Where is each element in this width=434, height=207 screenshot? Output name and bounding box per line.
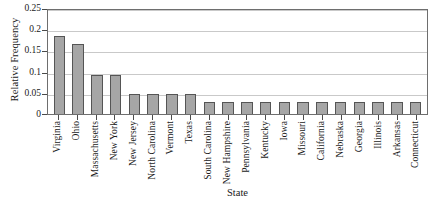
x-label-slot: Texas xyxy=(181,121,200,185)
x-tick-label: Massachusetts xyxy=(91,121,101,177)
y-tick-label: 0.05 xyxy=(24,89,41,99)
bar-slot xyxy=(294,10,313,114)
x-label-slot: Virginia xyxy=(49,121,68,185)
x-axis-tick-labels: VirginiaOhioMassachusettsNew YorkNew Jer… xyxy=(47,121,428,185)
bar-slot xyxy=(406,10,425,114)
plot-area xyxy=(47,9,428,115)
bar-slot xyxy=(88,10,107,114)
x-label-slot: Vermont xyxy=(162,121,181,185)
y-axis-tick-labels: 00.050.10.150.20.25 xyxy=(17,9,41,115)
x-axis-title: State xyxy=(47,187,428,198)
x-tick-mark xyxy=(133,115,134,120)
x-label-slot: North Carolina xyxy=(143,121,162,185)
bar-slot xyxy=(144,10,163,114)
x-tick-mark xyxy=(416,115,417,120)
x-tick-label: Iowa xyxy=(280,121,290,140)
bar xyxy=(72,44,84,114)
x-label-slot: New York xyxy=(106,121,125,185)
x-tick-slot xyxy=(68,115,87,120)
bar xyxy=(260,102,272,114)
bar-slot xyxy=(50,10,69,114)
x-tick-mark xyxy=(246,115,247,120)
bar xyxy=(129,94,141,114)
x-tick-mark xyxy=(284,115,285,120)
bar xyxy=(110,75,122,114)
x-tick-slot xyxy=(313,115,332,120)
x-tick-slot xyxy=(181,115,200,120)
bar xyxy=(316,102,328,114)
bar-slot xyxy=(369,10,388,114)
x-tick-mark xyxy=(58,115,59,120)
x-tick-slot xyxy=(143,115,162,120)
x-tick-label: Connecticut xyxy=(412,121,422,168)
bar xyxy=(297,102,309,114)
x-tick-label: New York xyxy=(110,121,120,160)
y-tick-label: 0.1 xyxy=(29,68,41,78)
x-tick-mark xyxy=(77,115,78,120)
x-tick-mark xyxy=(341,115,342,120)
x-tick-mark xyxy=(322,115,323,120)
bar-slot xyxy=(181,10,200,114)
x-tick-slot xyxy=(200,115,219,120)
x-tick-mark xyxy=(171,115,172,120)
bar-slot xyxy=(275,10,294,114)
bar-slot xyxy=(313,10,332,114)
x-tick-slot xyxy=(49,115,68,120)
x-tick-label: Arkansas xyxy=(393,121,403,157)
x-tick-slot xyxy=(106,115,125,120)
x-tick-slot xyxy=(162,115,181,120)
x-tick-slot xyxy=(219,115,238,120)
x-tick-slot xyxy=(332,115,351,120)
x-tick-mark xyxy=(359,115,360,120)
bar-slot xyxy=(69,10,88,114)
bar xyxy=(91,75,103,114)
x-tick-mark xyxy=(228,115,229,120)
bar-slot xyxy=(106,10,125,114)
bar-slot xyxy=(125,10,144,114)
y-tick-label: 0.2 xyxy=(29,25,41,35)
bar-slot xyxy=(256,10,275,114)
x-tick-label: New Hampshire xyxy=(223,121,233,184)
bar-slot xyxy=(200,10,219,114)
x-tick-label: Ohio xyxy=(73,121,83,140)
bar-slot xyxy=(219,10,238,114)
bar xyxy=(241,102,253,114)
x-label-slot: California xyxy=(313,121,332,185)
x-tick-mark xyxy=(190,115,191,120)
x-tick-label: Missouri xyxy=(299,121,309,156)
x-tick-label: Kentucky xyxy=(261,121,271,159)
x-tick-slot xyxy=(87,115,106,120)
x-label-slot: New Hampshire xyxy=(219,121,238,185)
bar-slot xyxy=(238,10,257,114)
bar xyxy=(204,102,216,114)
x-tick-mark xyxy=(96,115,97,120)
x-label-slot: Nebraska xyxy=(332,121,351,185)
x-label-slot: Illinois xyxy=(369,121,388,185)
bar xyxy=(166,94,178,114)
x-tick-slot xyxy=(294,115,313,120)
y-tick-label: 0.25 xyxy=(24,4,41,14)
x-tick-mark xyxy=(397,115,398,120)
x-label-slot: Massachusetts xyxy=(87,121,106,185)
x-tick-mark xyxy=(114,115,115,120)
x-tick-label: New Jersey xyxy=(129,121,139,166)
x-tick-mark xyxy=(152,115,153,120)
x-label-slot: Georgia xyxy=(351,121,370,185)
x-tick-slot xyxy=(124,115,143,120)
bar-series xyxy=(48,10,427,114)
y-tick-label: 0 xyxy=(36,110,41,120)
bar xyxy=(335,102,347,114)
x-tick-slot xyxy=(407,115,426,120)
x-tick-slot xyxy=(256,115,275,120)
x-tick-mark xyxy=(303,115,304,120)
x-label-slot: Arkansas xyxy=(388,121,407,185)
x-tick-slot xyxy=(275,115,294,120)
x-tick-label: Illinois xyxy=(374,121,384,149)
x-label-slot: South Carolina xyxy=(200,121,219,185)
x-tick-label: Pennsylvania xyxy=(242,121,252,173)
x-tick-label: South Carolina xyxy=(204,121,214,180)
bar xyxy=(279,102,291,114)
x-tick-slot xyxy=(351,115,370,120)
x-tick-label: Texas xyxy=(186,121,196,144)
x-tick-label: Virginia xyxy=(54,121,64,153)
